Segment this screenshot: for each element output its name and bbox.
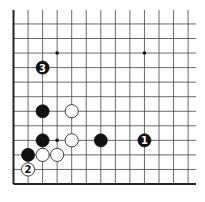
black-stone-icon [94,134,107,147]
move-number-label: 3 [39,63,46,74]
star-point-icon [143,51,147,55]
white-stone-icon [51,148,64,161]
black-stone [36,134,49,147]
black-stone-icon [36,105,49,118]
black-stone-icon [36,134,49,147]
white-stone-2: 2 [21,163,34,176]
move-number-label: 2 [25,164,32,175]
black-stone-3: 3 [36,61,49,74]
white-stone [65,134,78,147]
white-stone-icon [65,105,78,118]
go-board-diagram: 123 [0,0,205,202]
star-point-icon [55,139,59,143]
black-stone-1: 1 [138,134,151,147]
white-stone-icon [36,148,49,161]
move-number-label: 1 [141,135,148,146]
white-stone [65,105,78,118]
white-stone [36,148,49,161]
white-stone [51,148,64,161]
black-stone [21,148,34,161]
black-stone-icon [21,148,34,161]
star-point-icon [55,51,59,55]
black-stone [94,134,107,147]
black-stone [36,105,49,118]
white-stone-icon [65,134,78,147]
